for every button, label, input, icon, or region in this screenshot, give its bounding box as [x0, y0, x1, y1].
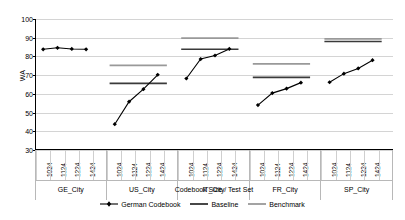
x-tick-divider: [264, 150, 265, 180]
x-tick-divider: [278, 150, 279, 180]
x-axis-title: Codebook Size / Test Set: [35, 186, 393, 193]
x-tick-divider: [36, 150, 37, 180]
x-tick-divider: [150, 150, 151, 180]
legend-item: German Codebook: [100, 200, 180, 208]
x-tick-divider: [207, 150, 208, 180]
chart-legend: German CodebookBaselineBenchmark: [0, 200, 405, 208]
x-tick-label: 1124: [274, 165, 281, 177]
x-tick-divider: [350, 150, 351, 180]
x-tick-divider: [121, 150, 122, 180]
x-tick-label: 1024: [46, 165, 53, 177]
x-tick-divider: [193, 150, 194, 180]
x-tick-label: 1424: [89, 165, 96, 177]
legend-label: Baseline: [211, 201, 238, 208]
x-tick-row: 1024112412241424: [178, 150, 249, 181]
series-line: [330, 60, 373, 82]
x-tick-label: 1224: [74, 165, 81, 177]
legend-swatch-icon: [100, 200, 118, 208]
x-tick-divider: [379, 150, 380, 180]
y-tick-label: 40: [25, 128, 33, 135]
series-line: [115, 75, 158, 124]
y-tick-label: 90: [25, 34, 33, 41]
x-tick-label: 1424: [159, 165, 166, 177]
x-tick-row: 1024112412241424: [321, 150, 392, 181]
x-tick-label: 1424: [302, 165, 309, 177]
x-tick-row: 1024112412241424: [250, 150, 321, 181]
x-tick-divider: [364, 150, 365, 180]
plot-area: 30405060708090100: [35, 19, 393, 150]
series-line: [43, 48, 86, 49]
x-tick-divider: [135, 150, 136, 180]
x-tick-label: 1424: [231, 165, 238, 177]
x-tick-label: 1124: [60, 165, 67, 177]
x-tick-label: 1224: [360, 165, 367, 177]
y-tick-label: 80: [25, 53, 33, 60]
legend-label: Benchmark: [269, 201, 304, 208]
legend-item: Baseline: [190, 200, 238, 208]
legend-label: German Codebook: [121, 201, 180, 208]
x-tick-divider: [307, 150, 308, 180]
x-tick-divider: [79, 150, 80, 180]
x-tick-divider: [93, 150, 94, 180]
data-point-marker: [227, 47, 231, 51]
y-tick-label: 30: [25, 147, 33, 154]
x-tick-divider: [164, 150, 165, 180]
x-tick-label: 1124: [131, 165, 138, 177]
data-point-marker: [41, 47, 45, 51]
x-tick-divider: [107, 150, 108, 180]
x-tick-label: 1024: [259, 165, 266, 177]
x-tick-divider: [293, 150, 294, 180]
x-tick-divider: [235, 150, 236, 180]
legend-swatch-icon: [248, 200, 266, 208]
chart-container: WA 30405060708090100 1024112412241424GE_…: [0, 0, 405, 220]
x-tick-label: 1124: [345, 165, 352, 177]
x-tick-label: 1424: [374, 165, 381, 177]
x-tick-divider: [221, 150, 222, 180]
x-tick-label: 1224: [216, 165, 223, 177]
data-point-marker: [55, 46, 59, 50]
series-layer: [36, 19, 394, 150]
x-tick-divider: [250, 150, 251, 180]
legend-swatch-icon: [190, 200, 208, 208]
y-tick-label: 50: [25, 109, 33, 116]
y-tick-label: 60: [25, 90, 33, 97]
y-tick-label: 70: [25, 72, 33, 79]
series-line: [258, 83, 301, 105]
x-tick-divider: [65, 150, 66, 180]
x-tick-row: 1024112412241424: [107, 150, 178, 181]
data-point-marker: [84, 47, 88, 51]
x-tick-divider: [321, 150, 322, 180]
data-point-marker: [299, 81, 303, 85]
x-tick-divider: [336, 150, 337, 180]
x-tick-divider: [50, 150, 51, 180]
series-line: [186, 49, 229, 79]
x-tick-label: 1224: [288, 165, 295, 177]
x-tick-label: 1024: [188, 165, 195, 177]
data-point-marker: [70, 47, 74, 51]
x-tick-row: 1024112412241424: [36, 150, 106, 181]
x-tick-label: 1024: [331, 165, 338, 177]
x-tick-label: 1224: [145, 165, 152, 177]
data-point-marker: [213, 53, 217, 57]
x-tick-divider: [178, 150, 179, 180]
data-point-marker: [285, 87, 289, 91]
y-tick-label: 100: [21, 16, 33, 23]
legend-item: Benchmark: [248, 200, 304, 208]
x-tick-label: 1124: [202, 165, 209, 177]
x-tick-label: 1024: [116, 165, 123, 177]
